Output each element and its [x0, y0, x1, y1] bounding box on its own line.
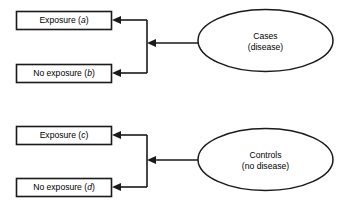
arrow-head-exposure-c [112, 131, 121, 139]
arrow-head-no-exposure-d [112, 183, 121, 191]
ellipse-controls [198, 129, 333, 191]
label-cases-line2: (disease) [248, 42, 283, 52]
label-exposure-a-prefix: Exposure ( [39, 15, 81, 25]
label-cases-line1: Cases [253, 31, 277, 41]
diagram-canvas: Exposure (a) No exposure (b) Cases (dise… [0, 0, 350, 205]
label-controls-line1: Controls [250, 150, 282, 160]
arrow-head-cases-trunk [147, 39, 156, 47]
label-no-exposure-d: No exposure (d) [33, 182, 95, 192]
label-exposure-c-prefix: Exposure ( [40, 130, 82, 140]
label-no-exposure-b-prefix: No exposure ( [33, 68, 87, 78]
controls-group: Exposure (c) No exposure (d) Controls (n… [17, 127, 334, 197]
ellipse-cases [198, 10, 333, 72]
label-exposure-c-suffix: ) [85, 130, 88, 140]
cases-group: Exposure (a) No exposure (b) Cases (dise… [17, 10, 334, 83]
case-control-diagram: Exposure (a) No exposure (b) Cases (dise… [0, 0, 350, 205]
label-exposure-a: Exposure (a) [39, 15, 88, 25]
label-exposure-c: Exposure (c) [40, 130, 89, 140]
label-no-exposure-d-suffix: ) [92, 182, 95, 192]
arrow-head-controls-trunk [147, 156, 156, 164]
arrow-head-no-exposure-b [112, 69, 121, 77]
label-controls-line2: (no disease) [242, 161, 289, 171]
arrow-head-exposure-a [112, 16, 121, 24]
label-no-exposure-d-prefix: No exposure ( [33, 182, 87, 192]
label-exposure-a-suffix: ) [86, 15, 89, 25]
label-no-exposure-b: No exposure (b) [33, 68, 95, 78]
label-no-exposure-b-suffix: ) [92, 68, 95, 78]
